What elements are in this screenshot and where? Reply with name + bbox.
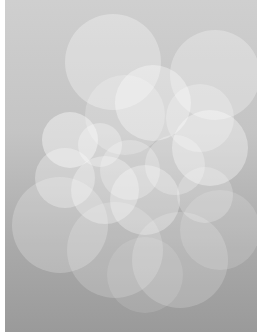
- bokeh-circle: [107, 237, 183, 313]
- bokeh-image: [5, 0, 257, 332]
- bokeh-circle: [180, 190, 257, 270]
